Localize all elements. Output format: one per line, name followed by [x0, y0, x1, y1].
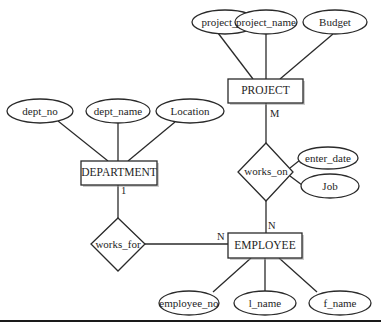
attribute-location: Location	[156, 99, 224, 123]
attribute-f_name: f_name	[309, 291, 371, 315]
attribute-budget: Budget	[303, 10, 367, 34]
attribute-label: enter_date	[305, 152, 351, 164]
line-location-department	[128, 122, 175, 161]
attribute-label: l_name	[249, 297, 281, 309]
line-employee-f_name	[279, 258, 317, 292]
relationship-label: works_on	[244, 165, 288, 177]
line-dept_no-department	[58, 121, 108, 161]
attribute-job: Job	[301, 174, 359, 198]
attribute-label: project_name	[236, 16, 296, 28]
attribute-label: Budget	[319, 16, 351, 28]
attribute-label: dept_name	[94, 105, 142, 117]
attribute-label: Location	[170, 105, 210, 117]
entity-department: DEPARTMENT	[81, 161, 159, 187]
entity-label: PROJECT	[241, 84, 290, 96]
attribute-project_name: project_name	[235, 10, 297, 34]
line-employee-employee_no	[213, 258, 251, 292]
cardinality-works_for-employee: N	[217, 231, 225, 242]
relationship-works_for: works_for	[91, 218, 145, 271]
line-works_on-job	[290, 176, 302, 185]
entity-project: PROJECT	[228, 79, 305, 105]
line-project_no-project	[218, 33, 253, 79]
cardinality-works_on-employee: N	[268, 220, 276, 231]
attribute-employee_no: employee_no	[159, 291, 219, 315]
relationship-works_on: works_on	[238, 143, 293, 201]
attribute-label: employee_no	[159, 297, 219, 309]
entity-label: DEPARTMENT	[81, 166, 157, 178]
attribute-dept_no: dept_no	[7, 99, 73, 123]
attribute-label: dept_no	[22, 105, 58, 117]
line-budget-project	[280, 34, 333, 79]
cardinality-department-works_for: 1	[121, 185, 126, 196]
entity-employee: EMPLOYEE	[228, 233, 304, 260]
cardinality-project-works_on: M	[270, 108, 280, 119]
attribute-enter_date: enter_date	[298, 147, 358, 169]
attribute-label: f_name	[324, 297, 357, 309]
attribute-dept_name: dept_name	[86, 99, 150, 123]
relationship-label: works_for	[95, 238, 141, 250]
er-diagram-canvas: project_no project_name Budget PROJECT M…	[0, 0, 381, 331]
attribute-label: Job	[322, 180, 338, 192]
entity-label: EMPLOYEE	[234, 239, 295, 251]
attribute-l_name: l_name	[234, 291, 296, 315]
